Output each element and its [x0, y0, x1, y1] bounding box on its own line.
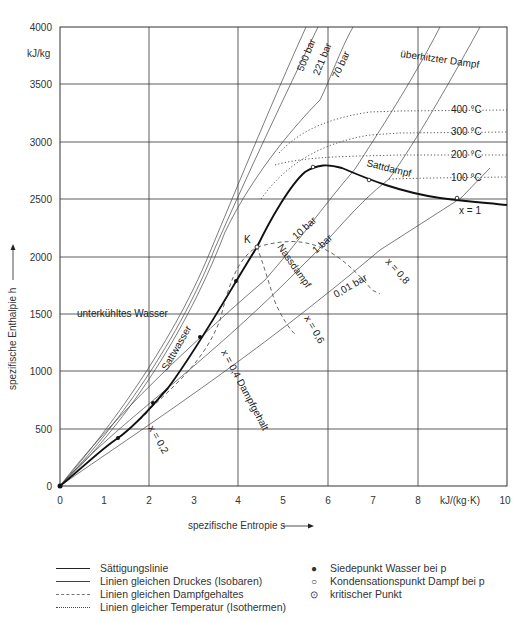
svg-text:1000: 1000	[30, 366, 53, 377]
y-axis-title: spezifische Enthalpie h	[7, 288, 18, 390]
legend-label: Kondensationspunkt Dampf bei p	[330, 575, 485, 588]
svg-text:400 °C: 400 °C	[451, 104, 482, 115]
svg-text:Nassdampf: Nassdampf	[275, 242, 313, 290]
svg-text:0: 0	[46, 481, 52, 492]
legend-label: Linien gleichen Druckes (Isobaren)	[100, 575, 262, 588]
svg-text:überhitzter Dampf: überhitzter Dampf	[400, 48, 480, 70]
critical-point-marker	[255, 245, 259, 249]
svg-text:10 bar: 10 bar	[290, 214, 319, 242]
svg-text:6: 6	[325, 495, 331, 506]
svg-text:4000: 4000	[30, 22, 53, 33]
svg-text:x = 0,8: x = 0,8	[384, 256, 413, 286]
svg-text:K: K	[244, 234, 251, 245]
legend-lines: Sättigungslinie Linien gleichen Druckes …	[56, 562, 286, 614]
solid-thin-swatch	[56, 581, 90, 582]
y-axis-ticks: 4000 3500 3000 2500 2000 1500 1000 500 0	[30, 22, 53, 492]
legend-condensation-point: ○ Kondensationspunkt Dampf bei p	[308, 575, 485, 588]
dotted-swatch	[56, 607, 90, 608]
dashed-swatch	[56, 594, 90, 595]
svg-text:1: 1	[101, 495, 107, 506]
legend-label: Linien gleicher Temperatur (Isothermen)	[100, 601, 286, 614]
svg-text:2: 2	[146, 495, 152, 506]
x-unit: kJ/(kg·K)	[440, 495, 480, 506]
svg-text:Sattwasser: Sattwasser	[159, 323, 194, 372]
h-s-diagram: 4000 3500 3000 2500 2000 1500 1000 500 0…	[0, 0, 530, 621]
legend-isobars: Linien gleichen Druckes (Isobaren)	[56, 575, 286, 588]
svg-text:10: 10	[499, 495, 511, 506]
y-axis-arrow	[11, 244, 16, 280]
svg-text:1500: 1500	[30, 309, 53, 320]
svg-text:1 bar: 1 bar	[310, 232, 335, 256]
svg-text:8: 8	[415, 495, 421, 506]
svg-text:500: 500	[35, 424, 52, 435]
svg-text:unterkühltes Wasser: unterkühltes Wasser	[77, 308, 168, 319]
legend-critical-point: ⊙ kritischer Punkt	[308, 588, 485, 601]
svg-text:100 °C: 100 °C	[451, 172, 482, 183]
circled-dot-icon: ⊙	[308, 588, 320, 601]
saturation-line	[60, 165, 507, 486]
svg-text:4: 4	[235, 495, 241, 506]
svg-text:x = 0,6: x = 0,6	[302, 314, 327, 346]
svg-text:70 bar: 70 bar	[330, 49, 352, 80]
legend-boiling-point: ● Siedepunkt Wasser bei p	[308, 562, 485, 575]
x-axis-arrow	[283, 524, 314, 529]
svg-text:Sattdampf: Sattdampf	[366, 157, 413, 179]
svg-text:2500: 2500	[30, 194, 53, 205]
svg-text:7: 7	[370, 495, 376, 506]
solid-thick-swatch	[56, 568, 90, 569]
svg-text:5: 5	[280, 495, 286, 506]
legend-label: Siedepunkt Wasser bei p	[330, 562, 446, 575]
svg-text:3500: 3500	[30, 79, 53, 90]
legend-points: ● Siedepunkt Wasser bei p ○ Kondensation…	[308, 562, 485, 601]
svg-text:x = 1: x = 1	[459, 205, 481, 216]
x-axis-title: spezifische Entropie s	[188, 520, 285, 531]
svg-text:200 °C: 200 °C	[451, 149, 482, 160]
legend-label: kritischer Punkt	[330, 588, 402, 601]
y-unit: kJ/kg	[27, 48, 50, 59]
svg-text:x = 0,2: x = 0,2	[146, 424, 171, 456]
legend-label: Linien gleichen Dampfgehaltes	[100, 588, 244, 601]
open-circle-icon: ○	[308, 575, 320, 588]
svg-text:300 °C: 300 °C	[451, 126, 482, 137]
isobars	[60, 27, 490, 486]
legend-quality-lines: Linien gleichen Dampfgehaltes	[56, 588, 286, 601]
legend-label: Sättigungslinie	[100, 562, 168, 575]
legend-isotherms: Linien gleicher Temperatur (Isothermen)	[56, 601, 286, 614]
svg-text:x = 0,4 Dampfgehalt: x = 0,4 Dampfgehalt	[219, 348, 271, 433]
svg-text:2000: 2000	[30, 252, 53, 263]
svg-text:3: 3	[191, 495, 197, 506]
svg-text:0: 0	[57, 495, 63, 506]
chart-labels: 500 bar 221 bar 70 bar überhitzter Dampf…	[77, 37, 482, 456]
filled-dot-icon: ●	[308, 562, 320, 575]
svg-text:3000: 3000	[30, 137, 53, 148]
legend-saturation-line: Sättigungslinie	[56, 562, 286, 575]
